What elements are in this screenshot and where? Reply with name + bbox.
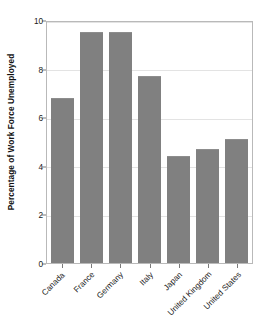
y-axis-tick-label: 8 — [19, 65, 43, 74]
x-axis-tick-mark — [91, 264, 92, 268]
bar-chart-figure: Percentage of Work Force Unemployed 0246… — [0, 0, 266, 329]
bar — [80, 32, 103, 263]
bar-slot — [193, 22, 222, 263]
y-axis-tick-label: 10 — [19, 17, 43, 26]
bar-slot — [164, 22, 193, 263]
plot-area — [46, 21, 253, 264]
bar — [225, 139, 248, 263]
bar-slot — [106, 22, 135, 263]
x-axis-tick-mark — [208, 264, 209, 268]
y-axis-tick-label: 0 — [19, 260, 43, 269]
x-axis-tick-mark — [120, 264, 121, 268]
y-axis-tick-label: 2 — [19, 211, 43, 220]
bar-slot — [222, 22, 251, 263]
bar — [138, 76, 161, 263]
x-axis-tick-mark — [179, 264, 180, 268]
x-axis-tick-label: Japan — [162, 270, 184, 292]
x-axis-tick-label: France — [72, 270, 96, 294]
bar — [51, 98, 74, 263]
bar — [196, 149, 219, 263]
x-axis-tick-label: Germany — [95, 270, 125, 300]
bar — [167, 156, 190, 263]
y-axis-tick-label: 6 — [19, 114, 43, 123]
y-axis-tick-label: 4 — [19, 162, 43, 171]
x-axis-tick-label: Italy — [138, 270, 155, 287]
y-axis-title: Percentage of Work Force Unemployed — [0, 0, 22, 264]
x-axis-tick-mark — [237, 264, 238, 268]
bar — [109, 32, 132, 263]
bar-slot — [135, 22, 164, 263]
bar-slot — [48, 22, 77, 263]
x-axis-tick-mark — [150, 264, 151, 268]
x-axis-tick-label: Canada — [40, 270, 67, 297]
x-axis-tick-mark — [62, 264, 63, 268]
bar-series — [47, 22, 252, 263]
bar-slot — [77, 22, 106, 263]
